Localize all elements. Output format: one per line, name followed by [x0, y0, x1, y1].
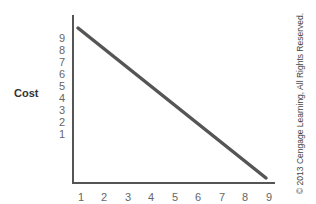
x-tick: 2	[101, 191, 107, 203]
x-tick: 5	[172, 191, 178, 203]
y-tick: 9	[59, 32, 65, 44]
x-tick: 3	[125, 191, 131, 203]
cost-skills-line	[78, 28, 266, 178]
x-tick: 1	[78, 191, 84, 203]
y-tick: 1	[59, 128, 65, 140]
x-tick-labels: 1 2 3 4 5 6 7 8 9	[78, 191, 272, 203]
y-tick-labels: 9 8 7 6 5 4 3 2 1	[59, 32, 65, 140]
y-tick: 2	[59, 116, 65, 128]
x-tick: 6	[195, 191, 201, 203]
y-tick: 7	[59, 56, 65, 68]
y-tick: 8	[59, 44, 65, 56]
y-axis-label: Cost	[14, 87, 39, 99]
x-tick: 9	[266, 191, 272, 203]
x-tick: 8	[242, 191, 248, 203]
copyright-notice: © 2013 Cengage Learning, All Rights Rese…	[295, 13, 305, 194]
y-tick: 5	[59, 80, 65, 92]
y-tick: 4	[59, 92, 65, 104]
x-tick: 7	[219, 191, 225, 203]
y-tick: 3	[59, 104, 65, 116]
x-tick: 4	[148, 191, 154, 203]
y-tick: 6	[59, 68, 65, 80]
chart: 9 8 7 6 5 4 3 2 1 1 2 3 4 5 6 7 8 9 Cost…	[0, 0, 316, 204]
